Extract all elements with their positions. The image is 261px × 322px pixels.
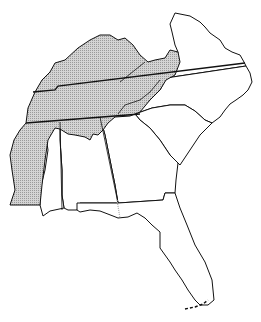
florida-state [77, 193, 214, 305]
southeast-us-map [0, 0, 261, 322]
